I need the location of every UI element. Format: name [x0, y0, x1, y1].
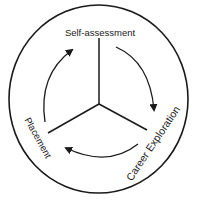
- arrow-career-to-placement-icon: [66, 144, 138, 157]
- arrow-placement-to-self-icon: [44, 50, 72, 122]
- arrow-self-to-career-icon: [116, 47, 154, 110]
- divider-left: [48, 104, 99, 133]
- stage-label-self-assessment: Self-assessment: [60, 28, 140, 38]
- career-cycle-diagram: Self-assessment Career Exploration Place…: [0, 0, 197, 205]
- divider-lines: [48, 38, 147, 133]
- divider-right: [99, 104, 147, 130]
